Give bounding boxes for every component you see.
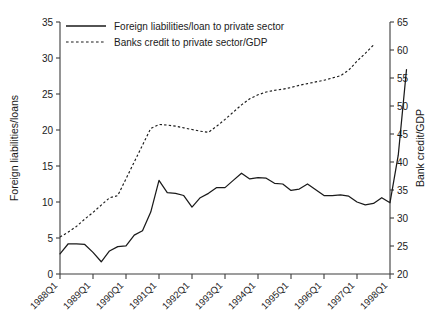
- x-axis-tick-label: 1995Q1: [259, 280, 291, 312]
- right-axis-tick-label: 55: [397, 73, 409, 84]
- dual-axis-line-chart: 05101520253035 20253035404550556065 1988…: [0, 0, 439, 328]
- x-axis-tick-label: 1998Q1: [358, 280, 390, 312]
- series-line-bank-credit: [60, 45, 374, 237]
- left-axis: 05101520253035: [42, 17, 60, 280]
- left-axis-tick-label: 20: [42, 125, 54, 136]
- chart-container: 05101520253035 20253035404550556065 1988…: [0, 0, 439, 328]
- legend-label: Banks credit to private sector/GDP: [114, 37, 268, 48]
- x-axis-tick-label: 1988Q1: [28, 280, 60, 312]
- series-line-foreign-liabilities: [60, 70, 407, 262]
- left-axis-tick-label: 10: [42, 197, 54, 208]
- left-axis-title: Foreign liabilities/loans: [8, 95, 20, 201]
- right-axis-tick-label: 35: [397, 185, 409, 196]
- right-axis-tick-label: 45: [397, 129, 409, 140]
- x-axis-tick-label: 1990Q1: [94, 280, 126, 312]
- series-lines: [60, 45, 407, 262]
- x-axis-tick-label: 1994Q1: [226, 280, 258, 312]
- chart-legend: Foreign liabilities/loan to private sect…: [66, 21, 285, 48]
- x-axis-tick-label: 1993Q1: [193, 280, 225, 312]
- left-axis-tick-label: 25: [42, 89, 54, 100]
- right-axis-tick-label: 65: [397, 17, 409, 28]
- x-axis-tick-label: 1996Q1: [292, 280, 324, 312]
- right-axis-tick-label: 40: [397, 157, 409, 168]
- right-axis-tick-label: 25: [397, 241, 409, 252]
- legend-label: Foreign liabilities/loan to private sect…: [114, 21, 285, 32]
- x-axis: 1988Q11989Q11990Q11991Q11992Q11993Q11994…: [28, 274, 390, 311]
- left-axis-tick-label: 30: [42, 53, 54, 64]
- x-axis-tick-label: 1991Q1: [127, 280, 159, 312]
- left-axis-tick-label: 5: [47, 233, 53, 244]
- right-axis-tick-label: 60: [397, 45, 409, 56]
- right-axis-tick-label: 30: [397, 213, 409, 224]
- axis-titles: Foreign liabilities/loansBank credit/GDP: [8, 95, 426, 201]
- x-axis-tick-label: 1997Q1: [325, 280, 357, 312]
- x-axis-tick-label: 1989Q1: [61, 280, 93, 312]
- left-axis-tick-label: 15: [42, 161, 54, 172]
- left-axis-tick-label: 0: [47, 269, 53, 280]
- right-axis-title: Bank credit/GDP: [414, 109, 426, 187]
- x-axis-tick-label: 1992Q1: [160, 280, 192, 312]
- right-axis-tick-label: 20: [397, 269, 409, 280]
- left-axis-tick-label: 35: [42, 17, 54, 28]
